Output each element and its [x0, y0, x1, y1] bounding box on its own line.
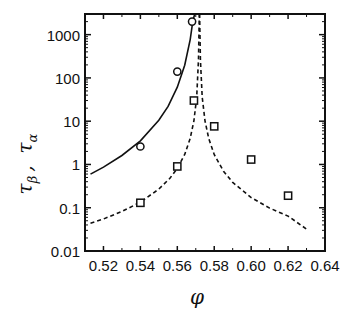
x-tick-label: 0.58: [200, 257, 229, 274]
square-marker: [284, 192, 291, 199]
square-marker: [174, 163, 181, 170]
square-marker: [137, 199, 144, 206]
circle-marker: [174, 68, 181, 75]
fit-curves: [91, 14, 309, 230]
x-tick-label: 0.64: [310, 257, 339, 274]
x-tick-label: 0.52: [89, 257, 118, 274]
plot-frame: [85, 14, 325, 251]
y-tick-label: 0.01: [51, 243, 80, 260]
data-markers: [137, 18, 292, 206]
square-marker: [211, 123, 218, 130]
y-tick-label: 10: [63, 113, 80, 130]
y-tick-label: 1: [72, 156, 80, 173]
y-tick-label: 1000: [47, 27, 80, 44]
svg-text:τβ,τα: τβ,τα: [13, 133, 40, 194]
y-axis-label: τβ,τα: [13, 133, 40, 194]
square-marker: [190, 97, 197, 104]
x-axis-ticks: 0.520.540.560.580.600.620.64: [89, 14, 340, 274]
square-marker: [248, 156, 255, 163]
circle-marker: [188, 18, 195, 25]
y-axis-ticks: 0.010.11101001000: [47, 14, 325, 260]
x-tick-label: 0.60: [237, 257, 266, 274]
plot-border: [85, 14, 325, 251]
x-tick-label: 0.62: [273, 257, 302, 274]
x-axis-label: φ: [190, 285, 204, 309]
dashed-fit-curve: [91, 14, 200, 223]
circle-marker: [137, 143, 144, 150]
x-tick-label: 0.56: [163, 257, 192, 274]
y-tick-label: 100: [55, 70, 80, 87]
chart: 0.520.540.560.580.600.620.64 0.010.11101…: [0, 0, 355, 327]
x-tick-label: 0.54: [126, 257, 155, 274]
y-tick-label: 0.1: [59, 200, 80, 217]
